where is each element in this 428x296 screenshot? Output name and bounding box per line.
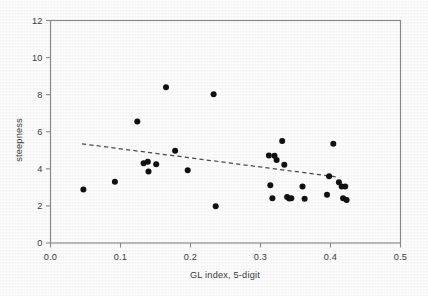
y-tick-label: 10: [32, 53, 43, 63]
data-point: [267, 182, 273, 188]
data-point: [300, 183, 306, 189]
y-tick-label: 6: [37, 127, 42, 137]
x-axis-title: GL index, 5-digit: [190, 270, 260, 280]
data-point: [211, 91, 217, 97]
x-tick-label: 0.0: [44, 252, 57, 262]
y-axis-ticks: [46, 21, 51, 244]
data-point: [344, 197, 350, 203]
y-tick-label: 8: [37, 90, 42, 100]
y-tick-label: 2: [37, 201, 42, 211]
data-point: [134, 119, 140, 125]
data-point: [288, 195, 294, 201]
data-point: [146, 168, 152, 174]
data-point: [153, 161, 159, 167]
data-point: [269, 195, 275, 201]
data-point-group: [80, 84, 349, 209]
x-tick-label: 0.3: [254, 252, 267, 262]
data-point: [112, 179, 118, 185]
x-tick-label: 0.1: [114, 252, 127, 262]
chart-canvas: 0.00.10.20.30.40.5 024681012 GL index, 5…: [0, 0, 428, 296]
data-point: [342, 183, 348, 189]
y-axis-title: steepness: [14, 118, 24, 162]
x-tick-label: 0.4: [324, 252, 337, 262]
data-point: [274, 157, 280, 163]
y-tick-label: 12: [32, 16, 43, 26]
data-point: [330, 141, 336, 147]
x-axis-ticks: [51, 243, 401, 248]
data-point: [145, 159, 151, 165]
data-point: [213, 203, 219, 209]
data-point: [279, 138, 285, 144]
data-point: [172, 148, 178, 154]
x-tick-label: 0.2: [184, 252, 197, 262]
data-point: [326, 173, 332, 179]
y-tick-label: 4: [37, 164, 42, 174]
data-point: [185, 167, 191, 173]
data-point: [163, 84, 169, 90]
data-point: [302, 196, 308, 202]
data-point: [266, 152, 272, 158]
x-tick-label: 0.5: [394, 252, 407, 262]
data-point: [324, 192, 330, 198]
data-point: [80, 187, 86, 193]
scatter-plot-figure: 0.00.10.20.30.40.5 024681012 GL index, 5…: [0, 0, 428, 296]
x-axis-tick-labels: 0.00.10.20.30.40.5: [44, 252, 407, 262]
data-point: [281, 162, 287, 168]
trend-line: [82, 144, 339, 177]
plot-frame: [51, 21, 401, 244]
y-axis-tick-labels: 024681012: [32, 16, 43, 249]
y-tick-label: 0: [37, 238, 42, 248]
